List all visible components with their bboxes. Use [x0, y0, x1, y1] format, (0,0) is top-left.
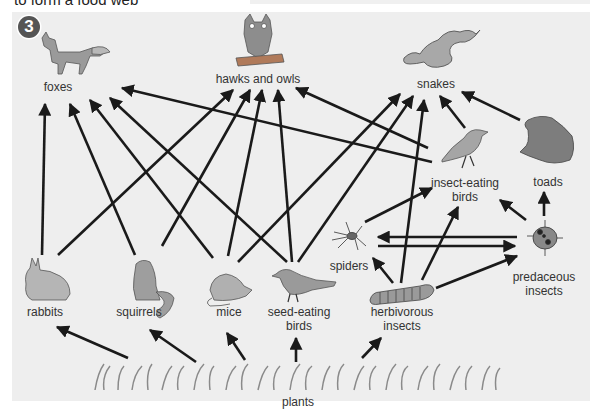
snake-illustration — [404, 30, 480, 67]
label-herbivorous-insects: herbivorous insects — [371, 305, 434, 333]
label-herbivorous-insects-line2: insects — [371, 319, 434, 333]
arrow-plants-squirrels — [150, 330, 196, 362]
label-squirrels: squirrels — [116, 305, 161, 319]
rabbit-illustration — [26, 258, 71, 300]
arrow-plants-herbinsects — [362, 338, 381, 358]
label-rabbits: rabbits — [27, 305, 63, 319]
mouse-illustration — [207, 274, 252, 306]
label-insect-eating-birds-line1: insect-eating — [431, 176, 499, 190]
label-seed-eating-birds-line1: seed-eating — [268, 305, 331, 319]
label-snakes: snakes — [417, 77, 455, 91]
label-seed-eating-birds: seed-eating birds — [268, 305, 331, 333]
label-spiders: spiders — [330, 259, 369, 273]
label-mice: mice — [216, 305, 241, 319]
owl-illustration — [236, 14, 284, 66]
label-hawks-and-owls: hawks and owls — [216, 72, 301, 86]
caterpillar-illustration — [370, 285, 434, 305]
insect-eating-bird-illustration — [442, 130, 488, 168]
food-web-diagram — [0, 0, 601, 417]
arrow-herbinsects-snakes — [401, 100, 424, 283]
arrow-rabbits-foxes — [42, 104, 45, 255]
step-number-badge: 3 — [18, 16, 40, 38]
seed-eating-bird-illustration — [272, 270, 336, 303]
arrow-mice-snakes — [238, 94, 400, 262]
ladybug-illustration — [527, 220, 563, 256]
label-herbivorous-insects-line1: herbivorous — [371, 305, 434, 319]
arrow-predaceous-insectbirds — [500, 200, 526, 220]
arrow-herbinsects-predaceous — [436, 256, 517, 288]
grass-illustration — [95, 364, 500, 390]
label-seed-eating-birds-line2: birds — [268, 319, 331, 333]
label-foxes: foxes — [44, 80, 73, 94]
arrow-herbinsects-spiders — [373, 258, 393, 283]
label-plants: plants — [282, 395, 314, 409]
arrow-toads-snakes — [462, 92, 520, 120]
spider-illustration — [332, 222, 366, 250]
label-insect-eating-birds: insect-eating birds — [431, 176, 499, 204]
arrow-insectbirds-hawks — [296, 88, 428, 148]
label-predaceous-insects: predaceous insects — [513, 270, 576, 298]
arrow-spiders-insectbirds — [365, 188, 432, 222]
toad-illustration — [520, 116, 574, 163]
label-insect-eating-birds-line2: birds — [431, 190, 499, 204]
arrow-plants-mice — [227, 333, 245, 360]
arrow-plants-rabbits — [57, 327, 128, 358]
label-predaceous-insects-line1: predaceous — [513, 270, 576, 284]
fox-illustration — [42, 32, 110, 74]
arrow-squirrels-hawks — [162, 90, 250, 246]
arrow-squirrels-foxes — [70, 104, 135, 255]
arrow-insectbirds-snakes — [440, 96, 465, 128]
label-toads: toads — [533, 175, 562, 189]
arrow-seedbirds-hawks — [278, 90, 292, 262]
label-predaceous-insects-line2: insects — [513, 284, 576, 298]
arrow-herbinsects-insectbirds — [422, 207, 458, 280]
arrow-mice-foxes — [90, 100, 213, 258]
